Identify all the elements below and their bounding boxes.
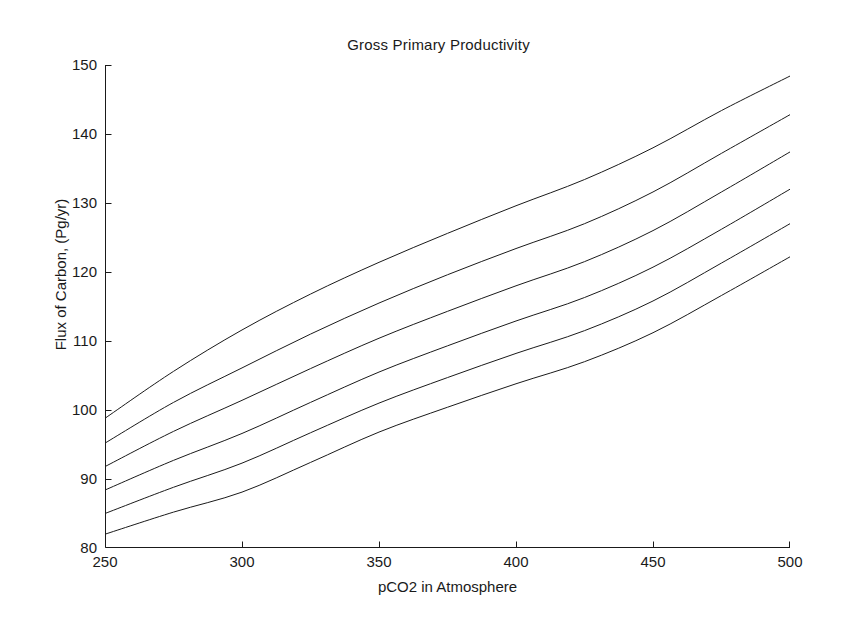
x-tick-label: 250 xyxy=(70,554,140,569)
y-tick-label: 130 xyxy=(53,195,97,210)
x-tick-label: 450 xyxy=(618,554,688,569)
plot-svg xyxy=(105,65,790,548)
y-tick-label: 80 xyxy=(53,540,97,555)
y-tick-label: 140 xyxy=(53,126,97,141)
x-tick-label: 350 xyxy=(344,554,414,569)
y-axis-tick-labels: 8090100110120130140150 xyxy=(53,65,97,548)
plot-area xyxy=(105,65,790,548)
data-series-group xyxy=(105,76,790,534)
data-line-curve-4 xyxy=(105,189,790,490)
x-tick-label: 400 xyxy=(481,554,551,569)
x-axis-label: pCO2 in Atmosphere xyxy=(105,578,790,595)
data-line-curve-5 xyxy=(105,224,790,514)
y-tick-label: 100 xyxy=(53,402,97,417)
x-axis-tick-labels: 250300350400450500 xyxy=(105,554,790,576)
x-tick-label: 500 xyxy=(755,554,825,569)
chart-title: Gross Primary Productivity xyxy=(14,36,849,53)
y-tick-label: 90 xyxy=(53,471,97,486)
data-line-curve-2 xyxy=(105,115,790,443)
data-line-curve-1 xyxy=(105,76,790,418)
x-tick-label: 300 xyxy=(207,554,277,569)
figure-canvas: Gross Primary Productivity Flux of Carbo… xyxy=(0,0,849,622)
data-line-curve-6 xyxy=(105,257,790,534)
y-tick-label: 110 xyxy=(53,333,97,348)
y-tick-label: 150 xyxy=(53,57,97,72)
data-line-curve-3 xyxy=(105,152,790,467)
y-tick-label: 120 xyxy=(53,264,97,279)
